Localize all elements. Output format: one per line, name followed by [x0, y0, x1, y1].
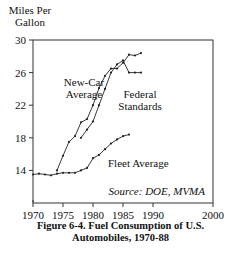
y-tick-label: 30: [15, 34, 27, 46]
data-point: [128, 54, 130, 56]
data-point: [44, 173, 46, 175]
data-point: [56, 169, 58, 171]
data-point: [56, 173, 58, 175]
y-tick-label: 14: [15, 164, 27, 176]
series-labels: New-CarAverageFederalStandardsFleet Aver…: [64, 76, 169, 169]
data-point: [68, 141, 70, 143]
data-point: [50, 174, 52, 176]
caption-line-2: Automobiles, 1970-88: [0, 232, 241, 244]
stray-marker: [32, 200, 34, 202]
y-axis-title-line: Miles Per: [9, 4, 52, 16]
data-point: [68, 172, 70, 174]
data-point: [38, 173, 40, 175]
data-point: [32, 173, 34, 175]
series-fleet-average: [32, 133, 130, 176]
data-point: [98, 154, 100, 156]
data-point: [80, 169, 82, 171]
data-point: [128, 72, 130, 74]
data-point: [104, 75, 106, 77]
caption-line-1: Figure 6-4. Fuel Consumption of U.S.: [0, 220, 241, 232]
data-point: [140, 72, 142, 74]
data-point: [92, 104, 94, 106]
data-point: [110, 67, 112, 69]
data-point: [104, 88, 106, 90]
series-label: Standards: [118, 100, 161, 112]
data-point: [74, 172, 76, 174]
data-point: [74, 135, 76, 137]
data-point: [98, 104, 100, 106]
source-annotation: Source: DOE, MVMA: [109, 185, 206, 197]
y-axis-title: Miles PerGallon: [9, 4, 52, 28]
data-point: [86, 167, 88, 169]
data-point: [110, 72, 112, 74]
data-point: [110, 142, 112, 144]
data-point: [86, 118, 88, 120]
plot-frame: [33, 40, 213, 203]
y-axis-ticks: 1418222630: [15, 34, 33, 176]
data-series: [32, 52, 142, 202]
data-point: [128, 133, 130, 135]
data-point: [122, 59, 124, 61]
y-axis-title-line: Gallon: [15, 16, 45, 28]
data-point: [80, 121, 82, 123]
data-point: [134, 72, 136, 74]
figure-caption: Figure 6-4. Fuel Consumption of U.S. Aut…: [0, 220, 241, 244]
series-label: Federal: [124, 88, 157, 100]
data-point: [140, 52, 142, 54]
y-tick-label: 26: [15, 67, 27, 79]
series-label: Fleet Average: [108, 157, 169, 169]
data-point: [134, 54, 136, 56]
series-label: New-Car: [64, 76, 105, 88]
x-axis-ticks: 197019751980198519902000: [22, 203, 225, 221]
data-point: [116, 138, 118, 140]
data-point: [86, 129, 88, 131]
data-point: [116, 67, 118, 69]
series-label: Average: [66, 88, 103, 100]
data-point: [62, 172, 64, 174]
y-tick-label: 18: [15, 132, 27, 144]
data-point: [122, 135, 124, 137]
data-point: [92, 120, 94, 122]
data-point: [80, 137, 82, 139]
data-point: [104, 148, 106, 150]
data-point: [92, 157, 94, 159]
data-point: [62, 155, 64, 157]
data-point: [116, 63, 118, 65]
y-tick-label: 22: [15, 99, 26, 111]
